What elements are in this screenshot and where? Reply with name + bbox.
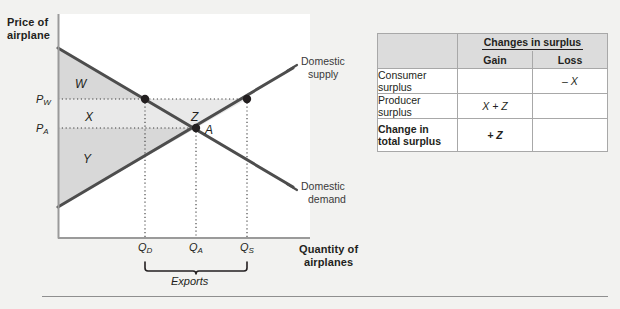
table-row: Consumer surplus – X (378, 69, 608, 94)
domestic-supply-label-line2: supply (301, 68, 345, 81)
table-row: Producer surplus X + Z (378, 94, 608, 119)
exports-bracket-label: Exports (171, 275, 208, 287)
table-column-loss: Loss (533, 51, 608, 69)
row-label-change-total-surplus: Change in total surplus (378, 119, 458, 152)
cell-producer-surplus-loss (533, 94, 608, 119)
x-axis-title-line1: Quantity of (299, 243, 358, 256)
row-label-change-total-surplus-line1: Change in (378, 123, 457, 135)
domestic-supply-label: Domestic supply (301, 55, 345, 80)
domestic-demand-label: Domestic demand (301, 180, 346, 205)
y-axis-title: Price of airplane (7, 16, 50, 41)
row-label-consumer-surplus: Consumer surplus (378, 69, 458, 94)
cell-consumer-surplus-loss: – X (533, 69, 608, 94)
x-axis-title-line2: airplanes (299, 256, 358, 269)
domestic-demand-label-line2: demand (301, 193, 346, 206)
table-column-gain: Gain (458, 51, 533, 69)
y-axis-title-line1: Price of (7, 16, 50, 29)
table-group-header: Changes in surplus (458, 34, 608, 52)
exports-bracket (145, 262, 247, 274)
price-tick-pw-sub: W (43, 98, 51, 107)
quantity-tick-qa: QA (189, 241, 203, 253)
x-axis-title: Quantity of airplanes (299, 243, 358, 268)
quantity-tick-qd-symbol: Q (138, 241, 147, 253)
cell-consumer-surplus-gain (458, 69, 533, 94)
price-tick-pw: PW (36, 93, 51, 105)
table-group-header-text: Changes in surplus (482, 36, 583, 50)
figure-panel: Price of airplane Quantity of airplanes … (0, 0, 620, 309)
price-tick-pa: PA (36, 122, 49, 134)
point-label-a: A (205, 123, 213, 137)
table-header-row-group: Changes in surplus (378, 34, 608, 52)
region-label-x: X (85, 110, 93, 124)
table-row: Change in total surplus + Z (378, 119, 608, 152)
cell-change-total-surplus-gain: + Z (458, 119, 533, 152)
y-axis-title-line2: airplane (7, 29, 50, 42)
quantity-tick-qs: QS (240, 241, 254, 253)
quantity-tick-qd-sub: D (147, 246, 153, 255)
cell-producer-surplus-gain: X + Z (458, 94, 533, 119)
region-label-w: W (75, 77, 86, 91)
quantity-tick-qd: QD (138, 241, 152, 253)
quantity-tick-qs-symbol: Q (240, 241, 249, 253)
quantity-tick-qa-sub: A (198, 246, 203, 255)
cell-change-total-surplus-loss (533, 119, 608, 152)
bottom-divider (42, 296, 608, 297)
domestic-demand-label-line1: Domestic (301, 180, 346, 193)
table-corner-cell (378, 34, 458, 69)
row-label-producer-surplus: Producer surplus (378, 94, 458, 119)
region-label-y: Y (83, 152, 91, 166)
changes-in-surplus-table: Changes in surplus Gain Loss Consumer su… (377, 33, 608, 152)
quantity-tick-qa-symbol: Q (189, 241, 198, 253)
quantity-tick-qs-sub: S (249, 246, 254, 255)
point-qs-pw (243, 95, 251, 103)
region-label-z: Z (191, 110, 198, 124)
row-label-change-total-surplus-line2: total surplus (378, 135, 457, 147)
point-qd-pw (141, 95, 149, 103)
domestic-supply-label-line1: Domestic (301, 55, 345, 68)
point-a-equilibrium (192, 124, 200, 132)
price-tick-pa-sub: A (43, 127, 48, 136)
